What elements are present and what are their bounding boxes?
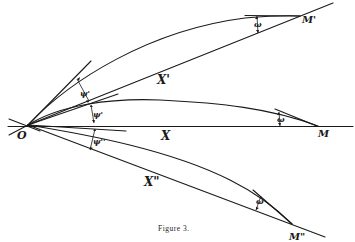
figure-caption: Figure 3.: [158, 224, 190, 233]
omega-arrowheads: [255, 16, 281, 210]
label-M-prime: M': [301, 14, 316, 25]
label-X: X: [160, 129, 171, 143]
chord-O-M-double-prime: [28, 125, 325, 237]
label-omega-middle: ω: [277, 114, 285, 124]
tangent-middle-at-O: [28, 94, 118, 125]
label-omega-upper: ω: [254, 19, 262, 29]
label-X-prime: X': [156, 73, 170, 87]
label-M-double-prime: M": [288, 231, 305, 242]
label-psi-lower: ψ'': [93, 136, 105, 146]
label-psi-middle: ψ': [93, 109, 103, 119]
curve-X: [28, 100, 318, 126]
label-X-double-prime: X": [143, 175, 160, 189]
figure-3-diagram: O M M' M" X' X X" ψ' ψ' ψ'' ω ω ω Figure…: [0, 0, 355, 242]
label-O: O: [17, 129, 27, 142]
label-M: M: [317, 128, 330, 139]
label-psi-upper: ψ': [80, 88, 90, 98]
label-omega-lower: ω: [256, 196, 264, 206]
tangent-at-M-prime: [245, 16, 300, 17]
